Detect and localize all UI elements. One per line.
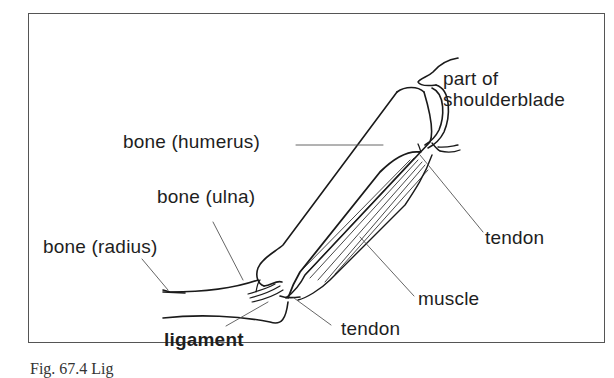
label-tendon-upper: tendon	[485, 228, 544, 248]
lower-tendon-drawing	[280, 296, 300, 298]
label-humerus: bone (humerus)	[123, 132, 260, 152]
label-shoulderblade-line1: part of	[443, 69, 498, 89]
label-tendon-lower: tendon	[341, 319, 400, 339]
label-radius: bone (radius)	[43, 237, 158, 257]
label-ligament: ligament	[164, 330, 244, 350]
muscle-drawing	[288, 152, 432, 300]
label-shoulderblade-line2: shoulderblade	[443, 90, 565, 110]
ligament-drawing	[248, 280, 283, 302]
label-muscle: muscle	[418, 289, 479, 309]
label-ulna: bone (ulna)	[157, 187, 255, 207]
figure-caption: Fig. 67.4 Lig	[30, 360, 114, 378]
